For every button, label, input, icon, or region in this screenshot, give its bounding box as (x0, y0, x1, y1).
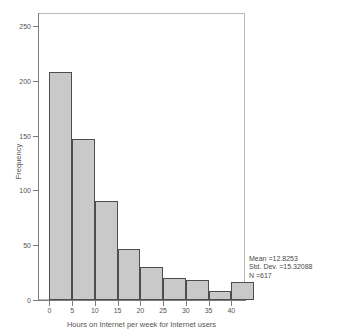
y-tick-label: 200 (19, 77, 31, 84)
y-tick-mark (33, 26, 38, 27)
x-tick-label: 5 (70, 307, 74, 314)
y-tick-mark (33, 81, 38, 82)
clipped-header-text (0, 0, 339, 4)
x-tick-label: 25 (159, 307, 167, 314)
histogram-bar (163, 278, 186, 300)
x-tick-label: 0 (47, 307, 51, 314)
histogram-bars (38, 13, 245, 300)
x-tick-label: 35 (205, 307, 213, 314)
x-tick-label: 10 (91, 307, 99, 314)
x-tick-mark (231, 301, 232, 306)
stat-std-dev: Std. Dev. =15.32088 (249, 263, 313, 271)
y-axis-label: Frequency (14, 117, 23, 207)
y-tick-label: 0 (27, 297, 31, 304)
y-tick-mark (33, 136, 38, 137)
x-tick-mark (95, 301, 96, 306)
histogram-bar (209, 291, 232, 300)
x-tick-mark (186, 301, 187, 306)
histogram-bar (186, 280, 209, 300)
histogram-figure: 050100150200250 Frequency 05101520253035… (0, 0, 339, 336)
x-tick-mark (163, 301, 164, 306)
histogram-bar (72, 139, 95, 300)
plot-area (38, 13, 245, 300)
y-tick-label: 250 (19, 23, 31, 30)
x-tick-mark (49, 301, 50, 306)
y-tick-mark (33, 190, 38, 191)
x-tick-label: 40 (227, 307, 235, 314)
y-axis-line (38, 13, 39, 301)
x-tick-label: 15 (114, 307, 122, 314)
histogram-bar (140, 267, 163, 300)
histogram-bar (231, 282, 254, 300)
stat-n: N =617 (249, 272, 313, 280)
y-tick-label: 50 (23, 242, 31, 249)
x-tick-mark (118, 301, 119, 306)
statistics-annotation: Mean =12.8253 Std. Dev. =15.32088 N =617 (249, 255, 313, 280)
histogram-bar (118, 249, 141, 300)
stat-mean: Mean =12.8253 (249, 255, 313, 263)
x-tick-label: 20 (136, 307, 144, 314)
histogram-bar (49, 72, 72, 300)
x-tick-mark (209, 301, 210, 306)
x-tick-mark (140, 301, 141, 306)
x-tick-label: 30 (182, 307, 190, 314)
x-axis-line (38, 300, 246, 301)
histogram-bar (95, 201, 118, 300)
x-axis-label: Hours on Internet per week for Internet … (38, 320, 245, 329)
y-tick-mark (33, 245, 38, 246)
x-tick-mark (72, 301, 73, 306)
